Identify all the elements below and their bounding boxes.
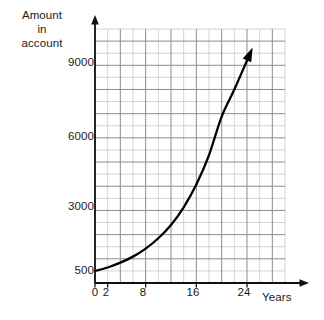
grid-major-lines bbox=[95, 29, 285, 283]
x-tick-label-24: 24 bbox=[234, 286, 254, 298]
x-tick-label-8: 8 bbox=[133, 286, 153, 298]
grid-minor-lines bbox=[95, 29, 285, 283]
curve-arrowhead bbox=[243, 48, 253, 63]
x-tick-label-2: 2 bbox=[96, 286, 116, 298]
y-tick-label-6000: 6000 bbox=[48, 130, 94, 142]
y-tick-label-3000: 3000 bbox=[48, 200, 94, 212]
x-axis-title: Years bbox=[262, 291, 292, 303]
y-tick-label-9000: 9000 bbox=[48, 56, 94, 68]
chart-figure: Amount in account 9000 6000 3000 500 0 2… bbox=[0, 0, 324, 320]
x-tick-label-16: 16 bbox=[183, 286, 203, 298]
axis-lines bbox=[91, 15, 309, 287]
y-tick-label-500: 500 bbox=[48, 264, 94, 276]
